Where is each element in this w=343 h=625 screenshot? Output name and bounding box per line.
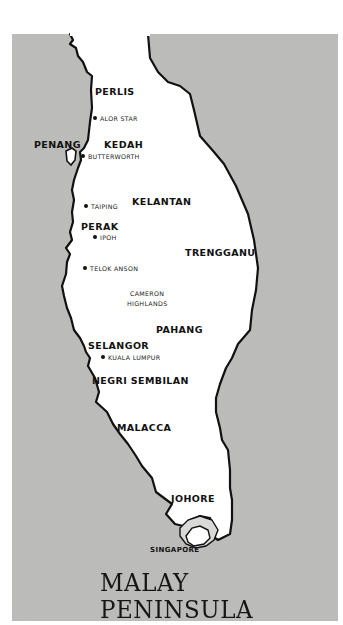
town-ipoh: IPOH bbox=[93, 235, 117, 241]
town-butterworth: BUTTERWORTH bbox=[81, 154, 140, 160]
region-cameron-highlands-line1: CAMERON bbox=[130, 291, 164, 297]
state-label-johore: JOHORE bbox=[171, 494, 215, 504]
town-alor-star: ALOR STAR bbox=[93, 116, 138, 122]
state-label-malacca: MALACCA bbox=[117, 423, 171, 433]
state-label-negri-sembilan: NEGRI SEMBILAN bbox=[92, 376, 189, 386]
town-label: ALOR STAR bbox=[100, 115, 138, 122]
map-page: PERLIS KEDAH PENANG KELANTAN PERAK TRENG… bbox=[0, 0, 343, 625]
town-kuala-lumpur: KUALA LUMPUR bbox=[101, 355, 160, 361]
state-label-trengganu: TRENGGANU bbox=[185, 248, 255, 258]
town-taiping: TAIPING bbox=[84, 204, 118, 210]
town-dot-icon bbox=[84, 204, 88, 208]
town-dot-icon bbox=[83, 266, 87, 270]
town-dot-icon bbox=[93, 235, 97, 239]
town-dot-icon bbox=[81, 154, 85, 158]
state-label-kedah: KEDAH bbox=[104, 140, 143, 150]
state-label-kelantan: KELANTAN bbox=[132, 197, 191, 207]
state-label-perlis: PERLIS bbox=[95, 87, 135, 97]
peninsula-map bbox=[0, 0, 343, 625]
town-label: BUTTERWORTH bbox=[88, 153, 140, 160]
town-label: TELOK ANSON bbox=[90, 265, 138, 272]
state-label-pahang: PAHANG bbox=[156, 325, 203, 335]
state-label-singapore: SINGAPORE bbox=[150, 547, 200, 554]
map-title: MALAY PENINSULA bbox=[100, 569, 343, 624]
town-telok-anson: TELOK ANSON bbox=[83, 266, 138, 272]
town-label: KUALA LUMPUR bbox=[108, 354, 160, 361]
state-label-selangor: SELANGOR bbox=[88, 341, 149, 351]
town-label: IPOH bbox=[100, 234, 117, 241]
town-dot-icon bbox=[101, 355, 105, 359]
town-dot-icon bbox=[93, 116, 97, 120]
state-label-perak: PERAK bbox=[81, 222, 118, 232]
region-cameron-highlands-line2: HIGHLANDS bbox=[127, 301, 167, 307]
state-label-penang: PENANG bbox=[34, 140, 81, 150]
town-label: TAIPING bbox=[91, 203, 118, 210]
